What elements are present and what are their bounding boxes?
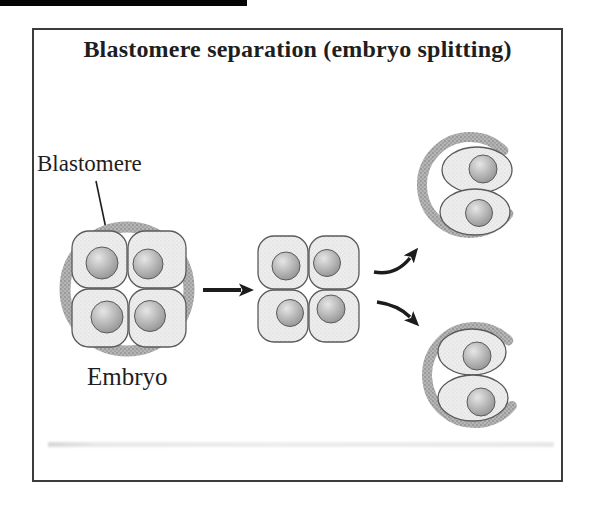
split-embryo-top — [422, 137, 512, 235]
cell-nucleus — [272, 252, 300, 280]
cell-nucleus — [91, 301, 123, 333]
cell-nucleus — [86, 247, 118, 279]
embryo-four-cell-with-zona — [65, 227, 189, 351]
scan-smudge — [48, 442, 554, 447]
cell-nucleus — [133, 249, 163, 279]
cell-nucleus — [469, 155, 497, 183]
four-cell-cluster-no-zona — [258, 236, 359, 342]
curved-arrow-down-icon — [377, 302, 410, 317]
cell-nucleus — [135, 301, 166, 332]
split-embryo-bottom — [427, 327, 512, 423]
diagram-canvas — [0, 0, 589, 505]
cell-nucleus — [463, 342, 491, 370]
cell-nucleus — [466, 200, 493, 227]
cell-nucleus — [314, 250, 341, 277]
cell-nucleus — [317, 295, 345, 323]
cell-nucleus — [467, 388, 495, 416]
cell-nucleus — [277, 300, 304, 327]
textbook-figure-page: Blastomere separation (embryo splitting)… — [0, 0, 589, 505]
curved-arrow-up-icon — [374, 258, 410, 273]
